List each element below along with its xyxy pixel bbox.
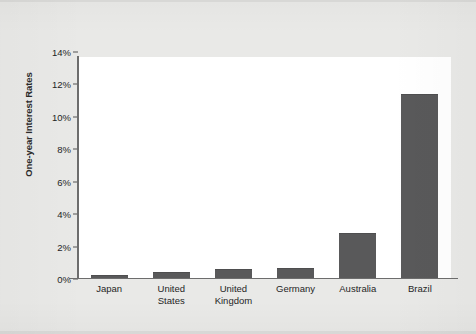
chart-figure: One-year Interest Rates 14% 12% 10% 8% 6… xyxy=(0,0,476,334)
y-tick-label-8: 8% xyxy=(40,144,71,155)
y-tick-label-14: 14% xyxy=(40,47,71,58)
bar-germany[interactable] xyxy=(277,268,314,278)
x-label-brazil: Brazil xyxy=(384,283,456,295)
y-axis-tick-labels: 14% 12% 10% 8% 6% 4% 2% 0% xyxy=(40,52,71,279)
x-axis-labels: Japan United States United Kingdom Germa… xyxy=(78,283,451,323)
y-tick-label-2: 2% xyxy=(40,241,71,252)
y-tick-label-0: 0% xyxy=(40,274,71,285)
y-axis-title: One-year Interest Rates xyxy=(23,50,34,200)
bar-australia[interactable] xyxy=(339,233,376,278)
y-tick-label-10: 10% xyxy=(40,111,71,122)
x-label-brazil-line1: Brazil xyxy=(384,283,456,295)
bar-united-kingdom[interactable] xyxy=(215,269,252,278)
bar-brazil[interactable] xyxy=(401,94,438,278)
scan-showthrough-1 xyxy=(100,18,106,34)
bar-chart: One-year Interest Rates 14% 12% 10% 8% 6… xyxy=(0,0,476,334)
y-tick-label-6: 6% xyxy=(40,176,71,187)
bars-layer xyxy=(78,57,451,278)
y-tick-label-4: 4% xyxy=(40,209,71,220)
x-label-united-kingdom-line2: Kingdom xyxy=(197,295,269,307)
bar-united-states[interactable] xyxy=(153,272,190,278)
y-tick-mark-14 xyxy=(73,52,78,53)
y-tick-label-12: 12% xyxy=(40,79,71,90)
bar-japan[interactable] xyxy=(91,275,128,278)
